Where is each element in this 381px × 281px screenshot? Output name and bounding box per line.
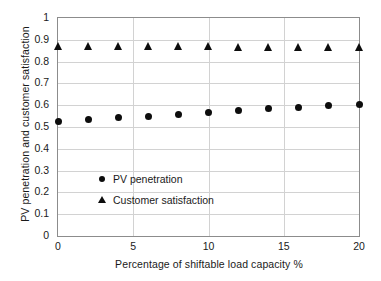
legend-item-pv-penetration: PV penetration	[95, 168, 295, 189]
data-point	[264, 43, 272, 51]
circle-marker-icon	[95, 176, 109, 182]
x-axis-tick-labels: 05101520	[0, 241, 381, 257]
y-tick-label: 0.9	[34, 34, 49, 44]
y-tick-label: 0	[43, 230, 49, 240]
y-axis-tick-labels: 00.10.20.30.40.50.60.70.80.91	[0, 0, 52, 281]
data-point	[85, 116, 92, 123]
data-point	[356, 101, 363, 108]
data-point	[144, 42, 152, 50]
data-point	[324, 43, 332, 51]
y-tick-label: 0.3	[34, 165, 49, 175]
y-tick-label: 0.6	[34, 99, 49, 109]
x-axis-title: Percentage of shiftable load capacity %	[57, 258, 361, 270]
data-point	[355, 43, 363, 51]
data-point	[294, 43, 302, 51]
data-point	[175, 111, 182, 118]
legend-label-pv-penetration: PV penetration	[109, 173, 182, 185]
data-point	[325, 102, 332, 109]
data-point	[115, 114, 122, 121]
x-tick-label: 0	[55, 241, 61, 252]
chart-legend: PV penetration Customer satisfaction	[95, 168, 295, 210]
x-tick-label: 15	[278, 241, 290, 252]
data-point	[234, 43, 242, 51]
data-point	[295, 104, 302, 111]
y-tick-label: 0.7	[34, 77, 49, 87]
data-point	[265, 105, 272, 112]
chart-figure: PV penetration and customer satisfaction…	[0, 0, 381, 281]
x-tick-label: 5	[130, 241, 136, 252]
y-tick-label: 1	[43, 12, 49, 22]
data-point	[205, 109, 212, 116]
data-point	[54, 42, 62, 50]
data-point	[145, 113, 152, 120]
data-point	[55, 118, 62, 125]
y-tick-label: 0.4	[34, 143, 49, 153]
y-tick-label: 0.1	[34, 208, 49, 218]
legend-label-customer-satisfaction: Customer satisfaction	[109, 194, 214, 206]
y-tick-label: 0.2	[34, 186, 49, 196]
x-tick-label: 10	[203, 241, 215, 252]
y-tick-label: 0.5	[34, 121, 49, 131]
data-point	[114, 42, 122, 50]
legend-item-customer-satisfaction: Customer satisfaction	[95, 189, 295, 210]
data-point	[174, 42, 182, 50]
data-point	[204, 42, 212, 50]
x-tick-label: 20	[353, 241, 365, 252]
triangle-marker-icon	[95, 196, 109, 203]
data-point	[235, 107, 242, 114]
y-tick-label: 0.8	[34, 56, 49, 66]
data-point	[84, 42, 92, 50]
